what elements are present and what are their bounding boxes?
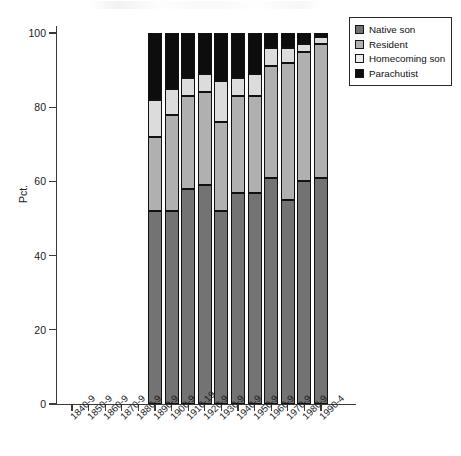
bar-segment <box>314 44 328 178</box>
bar-segment <box>231 96 245 192</box>
bar-stack <box>231 33 245 404</box>
legend-item: Resident <box>355 37 446 51</box>
legend-swatch-resident <box>355 40 364 49</box>
stacked-bar-chart: 020406080100 Pct. 1840-91850-91860-91870… <box>0 0 461 456</box>
bar-stack <box>198 33 212 404</box>
y-axis-tick-label: 60 <box>34 176 46 186</box>
bar-segment <box>165 89 179 115</box>
bar-segment <box>214 33 228 81</box>
legend-swatch-homecoming <box>355 54 364 63</box>
bar-segment <box>248 193 262 404</box>
y-axis-tick <box>49 255 56 256</box>
bar-segment <box>148 211 162 404</box>
bar-segment <box>214 211 228 404</box>
legend-label: Homecoming son <box>369 53 445 64</box>
bar-segment <box>264 66 278 177</box>
bar-segment <box>231 78 245 97</box>
legend-item: Native son <box>355 23 446 37</box>
plot-area <box>56 33 394 404</box>
bar-segment <box>148 137 162 211</box>
bar-segment <box>231 33 245 78</box>
bar-segment <box>314 37 328 44</box>
bar-segment <box>297 52 311 182</box>
bar-stack <box>281 33 295 404</box>
scan-artifact <box>90 1 320 9</box>
bar-segment <box>214 122 228 211</box>
bar-segment <box>181 189 195 404</box>
y-axis-tick <box>49 32 56 33</box>
bar-segment <box>198 185 212 404</box>
bar-segment <box>281 48 295 63</box>
bar-segment <box>281 63 295 200</box>
bar-segment <box>231 193 245 404</box>
bar-stack <box>264 33 278 404</box>
bar-segment <box>314 33 328 37</box>
bar-segment <box>148 33 162 100</box>
bar-segment <box>165 33 179 89</box>
chart-legend: Native sonResidentHomecoming sonParachut… <box>349 17 452 86</box>
legend-label: Native son <box>369 24 415 35</box>
y-axis-tick-labels: 020406080100 <box>0 0 46 456</box>
bar-segment <box>198 33 212 74</box>
y-axis-tick <box>49 403 56 404</box>
y-axis-tick-label: 40 <box>34 251 46 261</box>
bar-segment <box>198 74 212 93</box>
bar-segment <box>248 74 262 96</box>
y-axis-title: Pct. <box>17 185 29 203</box>
legend-item: Parachutist <box>355 66 446 80</box>
bar-stack <box>181 33 195 404</box>
legend-item: Homecoming son <box>355 52 446 66</box>
bar-stack <box>297 33 311 404</box>
bar-segment <box>297 44 311 51</box>
bar-segment <box>214 81 228 122</box>
y-axis-tick <box>49 107 56 108</box>
bar-stack <box>214 33 228 404</box>
bar-segment <box>165 211 179 404</box>
bar-segment <box>181 78 195 97</box>
bar-segment <box>198 92 212 185</box>
bar-segment <box>181 96 195 189</box>
bar-segment <box>248 33 262 74</box>
bar-stack <box>148 33 162 404</box>
bar-stack <box>165 33 179 404</box>
legend-swatch-parachutist <box>355 69 364 78</box>
bar-segment <box>297 181 311 404</box>
bar-segment <box>148 100 162 137</box>
legend-swatch-native <box>355 25 364 34</box>
bar-stack <box>248 33 262 404</box>
bar-segment <box>264 178 278 404</box>
bar-segment <box>248 96 262 192</box>
y-axis-tick-label: 80 <box>34 102 46 112</box>
bar-stack <box>314 33 328 404</box>
bar-segment <box>281 200 295 404</box>
bar-segment <box>264 33 278 48</box>
bar-segment <box>297 33 311 44</box>
legend-label: Parachutist <box>369 68 418 79</box>
y-axis-tick <box>49 181 56 182</box>
y-axis-tick-label: 0 <box>40 399 46 409</box>
y-axis-tick-label: 100 <box>28 28 46 38</box>
bar-segment <box>314 178 328 404</box>
bar-segment <box>181 33 195 78</box>
bar-segment <box>281 33 295 48</box>
y-axis-tick <box>49 329 56 330</box>
legend-label: Resident <box>369 39 408 50</box>
bar-segment <box>165 115 179 211</box>
y-axis-tick-label: 20 <box>34 325 46 335</box>
bar-segment <box>264 48 278 67</box>
